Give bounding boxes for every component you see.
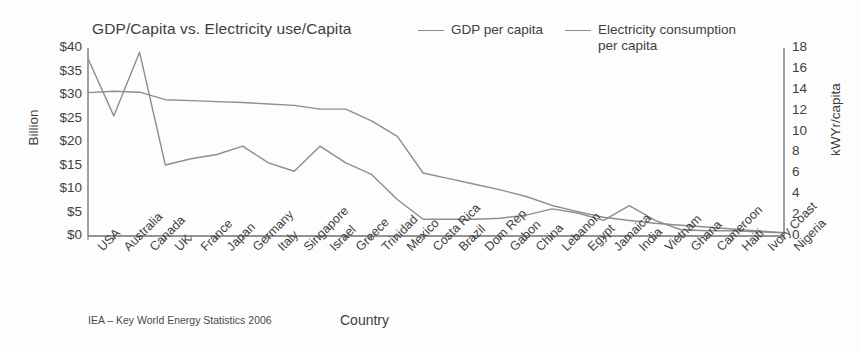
- series-line-electricity-per-capita: [88, 52, 784, 233]
- series-line-gdp-per-capita: [88, 91, 784, 232]
- axes-group: [88, 48, 784, 236]
- chart-page: GDP/Capita vs. Electricity use/Capita GD…: [0, 0, 860, 352]
- plot-area: [0, 0, 860, 352]
- data-series-group: [88, 52, 784, 233]
- x-axis-title: Country: [340, 312, 389, 328]
- source-note: IEA – Key World Energy Statistics 2006: [88, 314, 272, 326]
